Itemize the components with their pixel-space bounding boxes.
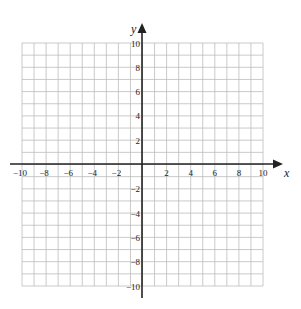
y-tick-label: 10 bbox=[131, 39, 141, 49]
y-tick-labels: 108642−2−4−6−8−10 bbox=[126, 39, 141, 292]
y-axis-label: y bbox=[130, 22, 137, 36]
y-tick-label: −6 bbox=[130, 233, 140, 243]
y-tick-label: −10 bbox=[126, 282, 141, 292]
x-tick-label: 6 bbox=[213, 168, 218, 178]
x-tick-label: −6 bbox=[63, 168, 73, 178]
x-tick-label: 10 bbox=[259, 168, 269, 178]
x-axis-arrow-icon bbox=[273, 160, 283, 169]
y-tick-label: −8 bbox=[130, 257, 140, 267]
y-axis-arrow-icon bbox=[138, 23, 147, 33]
coordinate-plane: −10−8−6−4−2246810 108642−2−4−6−8−10 x y bbox=[0, 0, 301, 309]
y-tick-label: 2 bbox=[136, 136, 141, 146]
x-tick-label: −4 bbox=[88, 168, 98, 178]
x-tick-label: −2 bbox=[112, 168, 122, 178]
x-tick-label: −8 bbox=[39, 168, 49, 178]
y-tick-label: −4 bbox=[130, 209, 140, 219]
x-tick-label: 8 bbox=[237, 168, 242, 178]
x-tick-label: 4 bbox=[188, 168, 193, 178]
x-tick-label: 2 bbox=[164, 168, 169, 178]
y-tick-label: 6 bbox=[136, 87, 141, 97]
y-tick-label: −2 bbox=[130, 184, 140, 194]
y-tick-label: 4 bbox=[136, 111, 141, 121]
x-tick-label: −10 bbox=[13, 168, 28, 178]
y-tick-label: 8 bbox=[136, 63, 141, 73]
x-axis-label: x bbox=[283, 166, 290, 180]
axes bbox=[10, 23, 283, 298]
